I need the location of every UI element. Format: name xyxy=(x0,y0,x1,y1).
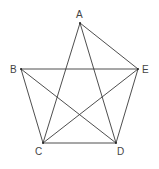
edge-BD xyxy=(21,69,116,143)
vertex-A xyxy=(79,22,81,24)
edge-AE xyxy=(80,23,138,69)
label-A: A xyxy=(76,9,83,20)
edge-BC xyxy=(21,69,43,143)
label-B: B xyxy=(10,64,17,75)
vertex-B xyxy=(20,68,22,70)
edge-AD xyxy=(80,23,116,143)
edge-DE xyxy=(116,69,138,143)
edge-CE xyxy=(43,69,138,143)
vertex-E xyxy=(137,68,139,70)
edges xyxy=(21,23,138,143)
pentagon-diagram: ABECD xyxy=(0,0,159,169)
edge-AC xyxy=(43,23,80,143)
label-E: E xyxy=(142,64,149,75)
label-D: D xyxy=(117,146,124,157)
vertex-labels: ABECD xyxy=(10,9,149,157)
vertex-C xyxy=(42,142,44,144)
label-C: C xyxy=(35,146,42,157)
vertex-D xyxy=(115,142,117,144)
